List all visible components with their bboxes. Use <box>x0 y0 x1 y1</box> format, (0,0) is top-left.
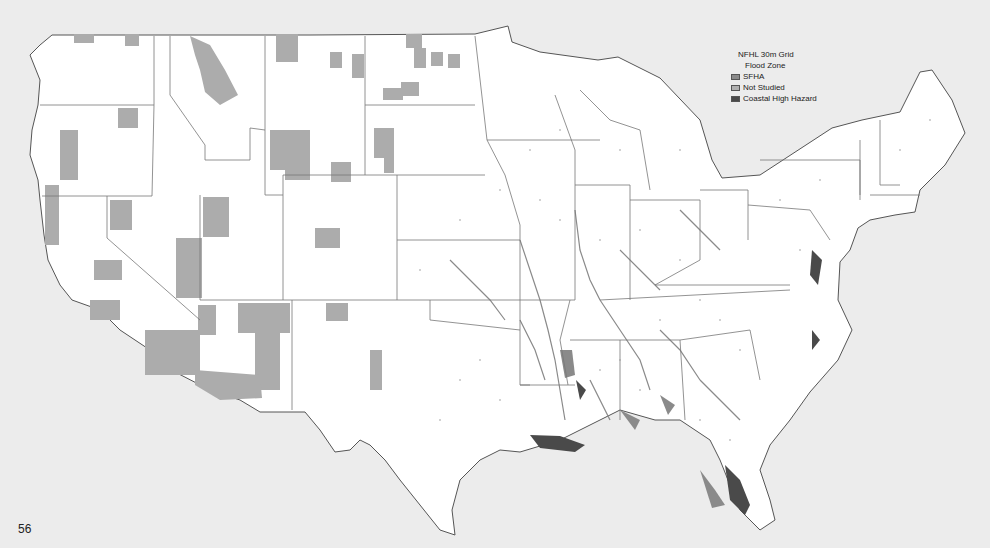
coastal-high-hazard-swatch-icon <box>731 96 740 102</box>
legend-item-not-studied: Not Studied <box>731 82 817 93</box>
us-flood-zone-map <box>0 0 990 548</box>
sfha-swatch-icon <box>731 74 740 80</box>
legend-subtitle: Flood Zone <box>731 60 817 71</box>
legend-label: SFHA <box>743 71 764 82</box>
map-legend: NFHL 30m Grid Flood Zone SFHA Not Studie… <box>731 49 817 104</box>
legend-item-sfha: SFHA <box>731 71 817 82</box>
not-studied-swatch-icon <box>731 85 740 91</box>
us-land-outline <box>30 26 965 535</box>
legend-label: Not Studied <box>743 82 785 93</box>
legend-item-coastal-high-hazard: Coastal High Hazard <box>731 93 817 104</box>
page-number: 56 <box>18 522 31 536</box>
slide: NFHL 30m Grid Flood Zone SFHA Not Studie… <box>0 0 990 548</box>
legend-title: NFHL 30m Grid <box>731 49 817 60</box>
legend-label: Coastal High Hazard <box>743 93 817 104</box>
